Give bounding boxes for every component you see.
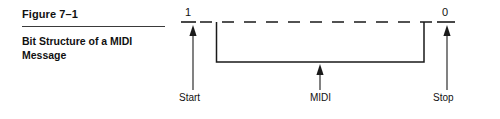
midi-label: MIDI [310,92,331,103]
stop-arrow [443,25,450,90]
start-label: Start [179,92,200,103]
high-level-label: 1 [180,7,196,18]
low-level-label: 0 [437,7,453,18]
stop-label: Stop [433,92,454,103]
timing-diagram-svg [0,0,500,119]
midi-arrow [316,64,323,90]
timing-diagram: 1 0 Start MIDI Stop [0,0,500,119]
figure-container: Figure 7–1 Bit Structure of a MIDI Messa… [0,0,500,119]
signal-waveform [217,22,425,62]
start-arrow [189,25,196,90]
